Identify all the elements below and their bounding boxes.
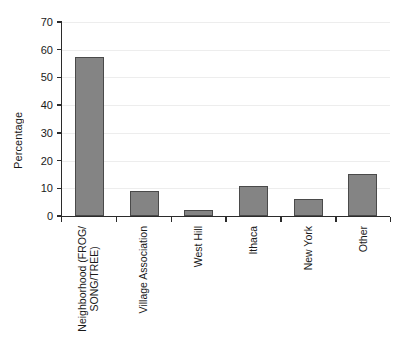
- bar[interactable]: [294, 199, 323, 216]
- x-label-slot: Ithaca: [225, 226, 280, 341]
- bar[interactable]: [239, 186, 268, 216]
- x-axis-tick-label: Other: [357, 226, 369, 252]
- bar-slot: [226, 22, 281, 216]
- x-label-slot: New York: [280, 226, 335, 341]
- y-tick-label: 60: [41, 44, 53, 56]
- x-tick: [280, 217, 281, 222]
- x-axis-ticks: [61, 217, 390, 223]
- y-tick-label: 40: [41, 99, 53, 111]
- bar-slot: [117, 22, 172, 216]
- x-axis-tick-label: Ithaca: [247, 226, 259, 255]
- bar[interactable]: [348, 174, 377, 216]
- x-tick: [390, 217, 391, 222]
- bar-chart: Percentage 010203040506070 Neighborhood …: [0, 0, 408, 346]
- y-tick-label: 20: [41, 155, 53, 167]
- plot-area: 010203040506070: [61, 22, 390, 217]
- x-tick-slot: [116, 217, 171, 223]
- bar-slot: [281, 22, 336, 216]
- x-label-slot: Other: [335, 226, 390, 341]
- bar[interactable]: [184, 210, 213, 216]
- bar[interactable]: [75, 57, 104, 216]
- x-axis-tick-label: West Hill: [192, 226, 204, 267]
- bar-slot: [335, 22, 390, 216]
- y-axis-title: Percentage: [8, 80, 28, 200]
- x-axis-tick-label: Village Association: [137, 226, 149, 313]
- y-tick-label: 0: [47, 210, 53, 222]
- x-tick: [171, 217, 172, 222]
- bar-slot: [171, 22, 226, 216]
- bar[interactable]: [130, 191, 159, 216]
- x-tick: [116, 217, 117, 222]
- x-axis-tick-label: Neighborhood (FROG/ SONG/TREE): [76, 226, 100, 332]
- y-tick-label: 10: [41, 182, 53, 194]
- x-tick: [335, 217, 336, 222]
- x-axis-labels: Neighborhood (FROG/ SONG/TREE)Village As…: [61, 226, 390, 341]
- bar-slot: [62, 22, 117, 216]
- x-tick-slot: [61, 217, 116, 223]
- y-tick-label: 50: [41, 71, 53, 83]
- y-tick-label: 30: [41, 127, 53, 139]
- x-axis-tick-label: New York: [302, 226, 314, 270]
- x-label-slot: Neighborhood (FROG/ SONG/TREE): [61, 226, 116, 341]
- x-tick-slot: [171, 217, 226, 223]
- x-tick: [225, 217, 226, 222]
- bar-series: [62, 22, 390, 216]
- x-tick: [61, 217, 62, 222]
- x-tick-slot: [335, 217, 390, 223]
- x-label-slot: West Hill: [171, 226, 226, 341]
- x-tick-slot: [225, 217, 280, 223]
- x-label-slot: Village Association: [116, 226, 171, 341]
- x-tick-slot: [280, 217, 335, 223]
- y-tick-label: 70: [41, 16, 53, 28]
